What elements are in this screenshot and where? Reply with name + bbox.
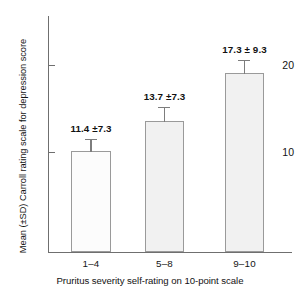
category-label-9-10: 9–10 [233, 258, 256, 269]
value-label-9-10: 17.3 ± 9.3 [222, 44, 267, 55]
x-axis-title: Pruritus severity self-rating on 10-poin… [0, 275, 300, 286]
error-bar-cap-1-4 [85, 139, 97, 140]
y-tick-mark-10 [49, 152, 55, 153]
bar-9-10 [225, 73, 264, 252]
plot-area: 20 10 11.4 ±7.3 1–4 13.7 ±7.3 5–8 17.3 ±… [0, 0, 300, 292]
bar-1-4 [71, 151, 111, 252]
figure: Mean (±SD) Carroll rating scale for depr… [0, 0, 300, 292]
category-label-1-4: 1–4 [83, 258, 100, 269]
value-label-1-4: 11.4 ±7.3 [70, 123, 111, 134]
value-label-5-8: 13.7 ±7.3 [144, 91, 186, 102]
x-axis-line [48, 252, 292, 253]
error-bar-cap-9-10 [238, 60, 250, 61]
error-bar-stem-9-10 [244, 60, 245, 74]
y-tick-label-20: 20 [254, 59, 300, 71]
bar-5-8 [145, 121, 184, 252]
error-bar-cap-5-8 [158, 107, 170, 108]
category-label-5-8: 5–8 [156, 258, 173, 269]
y-axis-line [48, 16, 49, 253]
y-tick-mark-20 [49, 65, 55, 66]
error-bar-stem-1-4 [90, 139, 91, 152]
error-bar-stem-5-8 [164, 107, 165, 122]
